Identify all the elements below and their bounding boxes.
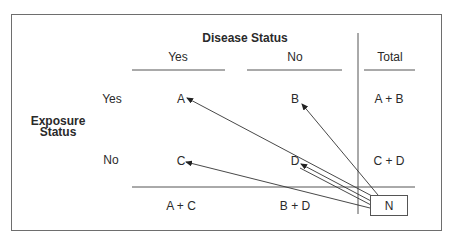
cell-a-plus-c: A + C xyxy=(166,199,196,213)
cell-c-plus-d: C + D xyxy=(373,154,404,168)
column-header-no: No xyxy=(287,50,302,64)
column-header-total: Total xyxy=(377,50,402,64)
cell-d: D xyxy=(291,154,300,168)
cell-b-plus-d: B + D xyxy=(280,199,310,213)
cell-b: B xyxy=(291,92,299,106)
cell-a: A xyxy=(177,92,185,106)
exposure-status-label: Exposure Status xyxy=(31,116,86,138)
arrow-n-to-c xyxy=(186,162,370,208)
row-header-yes: Yes xyxy=(102,92,122,106)
grand-total-label: N xyxy=(385,199,394,213)
disease-status-title: Disease Status xyxy=(202,31,287,45)
cell-a-plus-b: A + B xyxy=(374,92,403,106)
exposure-status-line2: Status xyxy=(31,127,86,138)
cell-c: C xyxy=(177,154,186,168)
arrow-n-to-a xyxy=(187,98,372,196)
arrow-n-to-d xyxy=(301,164,371,201)
arrow-n-to-b xyxy=(302,104,378,195)
column-header-yes: Yes xyxy=(168,50,188,64)
grand-total-box: N xyxy=(370,195,408,216)
row-header-no: No xyxy=(103,153,118,167)
